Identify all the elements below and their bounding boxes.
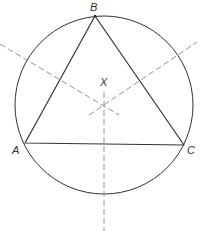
vertex-b-dot	[94, 15, 97, 18]
label-x: X	[99, 76, 108, 88]
label-a: A	[11, 144, 19, 156]
label-c: C	[187, 144, 195, 156]
circumcircle-diagram: B A C X	[0, 0, 202, 231]
label-b: B	[90, 1, 97, 13]
